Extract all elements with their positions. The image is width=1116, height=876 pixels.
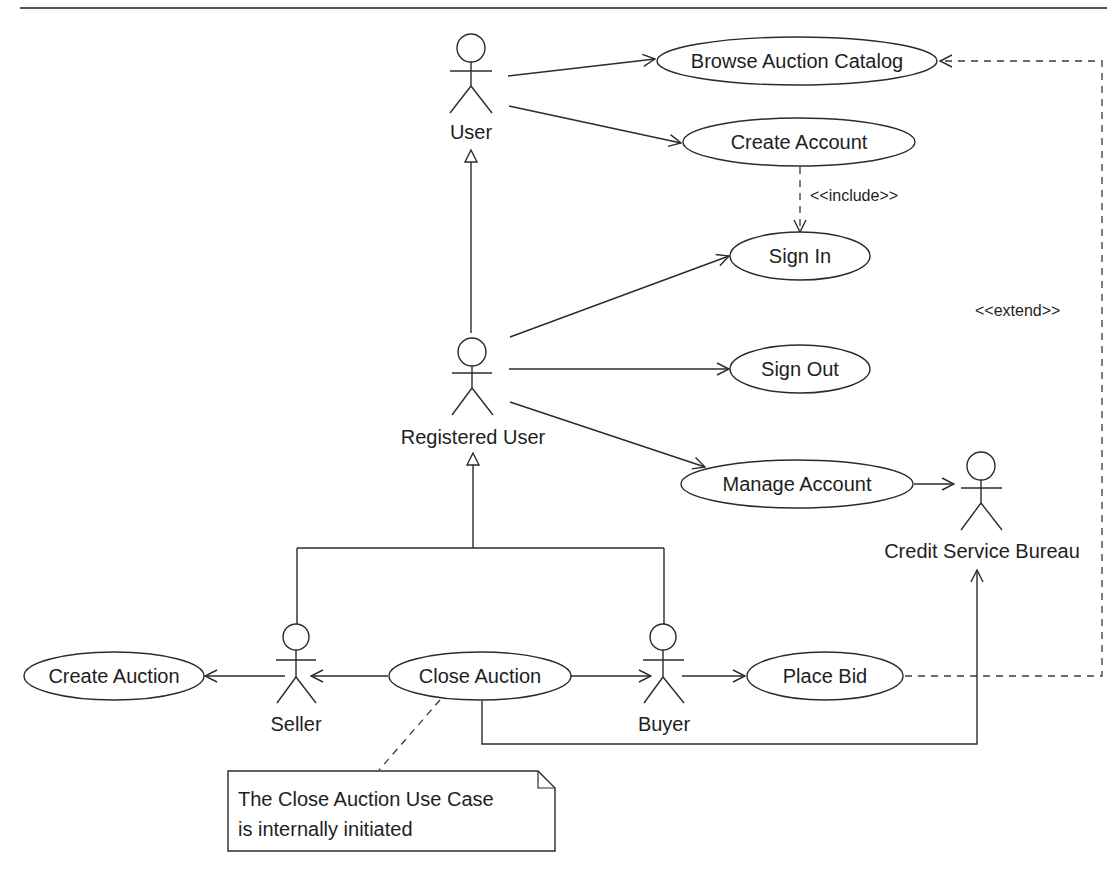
include-stereotype-label: <<include>> [810,187,898,204]
actor-user[interactable]: User [450,34,493,143]
assoc-reguser-sign-in [510,256,729,337]
use-case-diagram: Browse Auction Catalog Create Account Si… [0,0,1116,876]
stick-figure-icon [450,34,492,113]
stick-figure-icon [276,624,316,703]
stick-figure-icon [961,452,1002,530]
use-case-create-auction[interactable]: Create Auction [24,652,204,700]
note-close-auction: The Close Auction Use Case is internally… [228,771,555,851]
actor-label: Buyer [638,713,691,735]
actor-credit-service-bureau[interactable]: Credit Service Bureau [884,452,1080,562]
use-case-create-account[interactable]: Create Account [683,118,915,166]
use-case-sign-in[interactable]: Sign In [730,232,870,280]
assoc-user-browse [508,59,655,76]
note-line-1: The Close Auction Use Case [238,788,494,810]
use-case-label: Sign Out [761,358,839,380]
use-case-place-bid[interactable]: Place Bid [747,652,903,700]
use-case-label: Place Bid [783,665,868,687]
extend-place-bid-browse [905,61,1102,676]
extend-stereotype-label: <<extend>> [975,302,1060,319]
note-line-2: is internally initiated [238,818,413,840]
use-case-browse-auction-catalog[interactable]: Browse Auction Catalog [657,37,937,85]
actor-seller[interactable]: Seller [270,624,321,735]
stick-figure-icon [452,338,493,415]
note-anchor [379,700,440,770]
generalization-arrowhead-user [465,150,477,162]
stick-figure-icon [643,624,684,703]
connectors [205,59,1102,770]
use-case-label: Browse Auction Catalog [691,50,903,72]
assoc-user-create-account [509,106,681,143]
use-case-sign-out[interactable]: Sign Out [730,345,870,393]
actor-label: Registered User [401,426,546,448]
generalization-arrowhead-reguser [467,453,479,465]
use-case-label: Sign In [769,245,831,267]
actor-label: Seller [270,713,321,735]
actor-label: Credit Service Bureau [884,540,1080,562]
actor-buyer[interactable]: Buyer [638,624,691,735]
use-case-label: Create Account [731,131,868,153]
actor-registered-user[interactable]: Registered User [401,338,546,448]
assoc-close-auction-csb [482,570,977,744]
use-case-manage-account[interactable]: Manage Account [681,460,913,508]
actor-label: User [450,121,493,143]
use-case-label: Create Auction [48,665,179,687]
use-case-label: Manage Account [723,473,872,495]
use-case-label: Close Auction [419,665,541,687]
use-case-close-auction[interactable]: Close Auction [389,652,571,700]
